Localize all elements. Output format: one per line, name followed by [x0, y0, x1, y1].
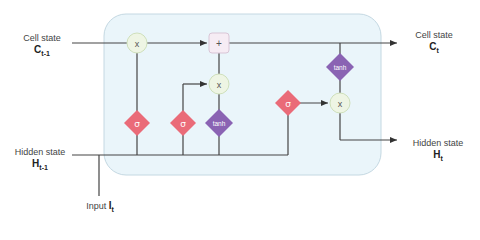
output-multiply-node: x — [330, 93, 350, 113]
svg-text:x: x — [338, 99, 343, 109]
forget-multiply-node: x — [127, 33, 147, 53]
input-multiply-node: x — [209, 74, 229, 94]
hidden-state-in-label: Hidden state Ht-1 — [8, 147, 72, 173]
cell-state-out-label: Cell state Ct — [406, 30, 462, 56]
add-node: + — [209, 33, 229, 53]
svg-text:σ: σ — [180, 119, 186, 129]
svg-text:tanh: tanh — [334, 64, 347, 71]
cell-state-in-label: Cell state Ct-1 — [14, 33, 70, 59]
svg-text:σ: σ — [134, 119, 140, 129]
svg-text:x: x — [135, 39, 140, 49]
svg-text:x: x — [217, 80, 222, 90]
hidden-state-out-label: Hidden state Ht — [405, 138, 471, 164]
svg-text:+: + — [216, 38, 222, 49]
svg-text:σ: σ — [285, 99, 291, 109]
svg-text:tanh: tanh — [213, 120, 226, 127]
input-label: Input It — [70, 200, 130, 215]
